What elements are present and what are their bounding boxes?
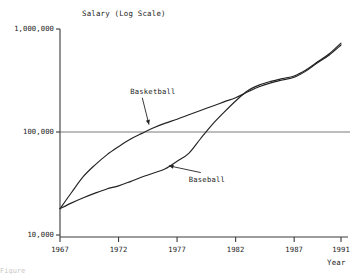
- series-lines-group: [60, 43, 341, 209]
- series-label-baseball: Baseball: [189, 175, 225, 184]
- figure-container: 1,000,000100,00010,000 19671972197719821…: [0, 0, 359, 274]
- x-tick-label: 1987: [285, 245, 303, 254]
- y-axis-title: Salary (Log Scale): [82, 9, 166, 18]
- annotation-arrowhead-basketball: [146, 120, 150, 125]
- salary-log-scale-line-chart: 1,000,000100,00010,000 19671972197719821…: [0, 0, 359, 274]
- y-tick-marks: [56, 29, 60, 235]
- y-tick-labels: 1,000,000100,00010,000: [14, 24, 54, 239]
- x-tick-label: 1967: [51, 245, 69, 254]
- annotation-arrow-baseball: [169, 166, 201, 173]
- x-tick-marks: [60, 237, 341, 242]
- x-tick-label: 1982: [227, 245, 245, 254]
- y-tick-label: 100,000: [23, 127, 54, 136]
- x-axis-group: 196719721977198219871991: [51, 237, 350, 254]
- x-axis-title: Year: [327, 258, 346, 267]
- x-tick-label: 1972: [110, 245, 128, 254]
- series-line-basketball: [60, 45, 341, 209]
- y-tick-label: 10,000: [27, 230, 54, 239]
- series-line-baseball: [60, 43, 341, 209]
- x-tick-labels: 196719721977198219871991: [51, 245, 350, 254]
- y-tick-label: 1,000,000: [14, 24, 54, 33]
- y-axis-group: 1,000,000100,00010,000: [14, 24, 60, 239]
- figure-caption-fragment: Figure: [0, 267, 359, 274]
- series-annotations-group: BasketballBaseball: [130, 87, 225, 184]
- series-label-basketball: Basketball: [130, 87, 175, 96]
- x-tick-label: 1977: [168, 245, 186, 254]
- x-tick-label: 1991: [332, 245, 350, 254]
